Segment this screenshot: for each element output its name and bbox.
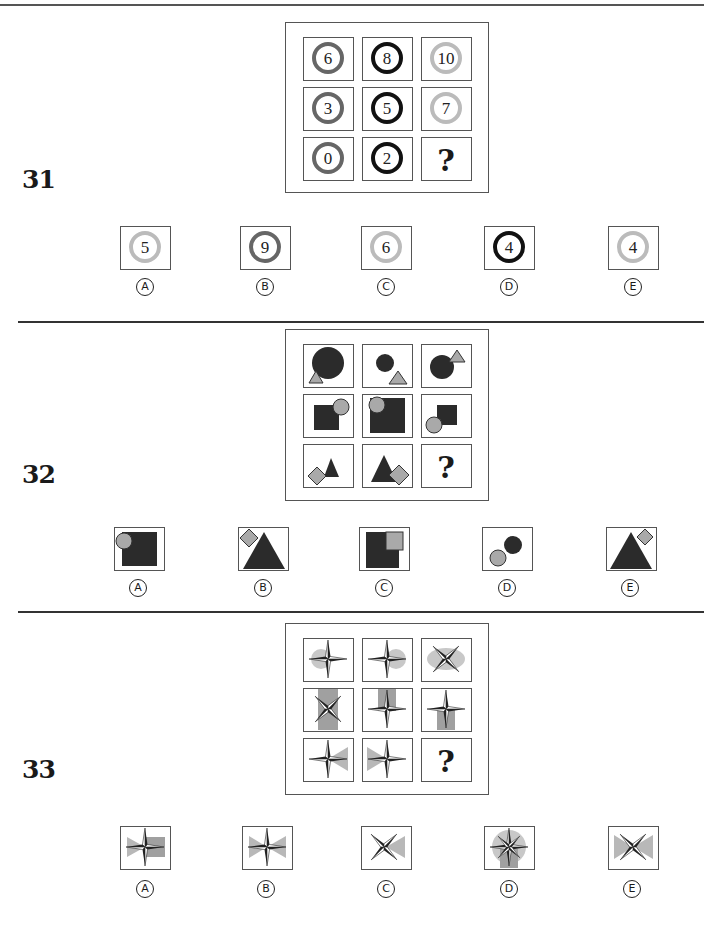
q32-cell-3-2 — [362, 444, 413, 488]
q31-option-c-label[interactable]: C — [376, 276, 396, 296]
q33-cell-2-1 — [303, 688, 354, 732]
q33-option-e[interactable] — [608, 826, 659, 870]
q31-option-d-label[interactable]: D — [499, 276, 519, 296]
q32-option-e-label[interactable]: E — [620, 577, 640, 597]
q31-cell-1-3: 10 — [421, 37, 472, 81]
q32-cell-2-1 — [303, 394, 354, 438]
q32-cell-2-3 — [421, 394, 472, 438]
q32-option-c-label[interactable]: C — [374, 577, 394, 597]
svg-text:?: ? — [437, 143, 455, 178]
q31-cell-1-1: 6 — [303, 37, 354, 81]
svg-text:9: 9 — [261, 238, 270, 257]
q32-option-d[interactable] — [482, 527, 533, 571]
q33-option-a[interactable] — [120, 826, 171, 870]
svg-text:5: 5 — [383, 99, 392, 118]
q31-cell-2-3: 7 — [421, 87, 472, 131]
q31-matrix: 681035702? — [285, 22, 489, 193]
q31-cell-3-3-missing: ? — [421, 137, 472, 181]
q31-cell-2-1: 3 — [303, 87, 354, 131]
page-top-rule — [0, 4, 704, 6]
q32-matrix: ? — [285, 329, 489, 501]
q32-option-a[interactable] — [114, 527, 165, 571]
svg-text:?: ? — [437, 744, 455, 779]
q32-option-e[interactable] — [606, 527, 657, 571]
svg-text:6: 6 — [324, 49, 333, 68]
q33-option-d-label[interactable]: D — [499, 878, 519, 898]
q32-option-d-label[interactable]: D — [497, 577, 517, 597]
q31-option-a-label[interactable]: A — [135, 276, 155, 296]
q32-cell-1-1 — [303, 344, 354, 388]
q33-cell-1-1 — [303, 638, 354, 682]
q33-cell-1-3 — [421, 638, 472, 682]
q31-option-b[interactable]: 9 — [240, 226, 291, 270]
q33-option-e-label[interactable]: E — [622, 878, 642, 898]
q31-option-e-label[interactable]: E — [623, 276, 643, 296]
q33-cell-1-2 — [362, 638, 413, 682]
q31-option-d[interactable]: 4 — [484, 226, 535, 270]
svg-text:5: 5 — [141, 238, 150, 257]
svg-text:4: 4 — [505, 238, 514, 257]
q33-option-c-label[interactable]: C — [376, 878, 396, 898]
q33-option-a-label[interactable]: A — [135, 878, 155, 898]
q32-cell-2-2 — [362, 394, 413, 438]
q33-option-d[interactable] — [484, 826, 535, 870]
q31-cell-2-2: 5 — [362, 87, 413, 131]
q32-option-a-label[interactable]: A — [128, 577, 148, 597]
svg-text:3: 3 — [324, 99, 333, 118]
q33-matrix: ? — [285, 623, 489, 795]
q31-option-a[interactable]: 5 — [120, 226, 171, 270]
q33-cell-2-3 — [421, 688, 472, 732]
svg-text:2: 2 — [383, 149, 392, 168]
svg-text:7: 7 — [442, 99, 451, 118]
section-divider — [18, 321, 704, 323]
svg-text:8: 8 — [383, 49, 392, 68]
q31-cell-3-2: 2 — [362, 137, 413, 181]
question-number-32: 32 — [22, 460, 55, 489]
q31-option-b-label[interactable]: B — [255, 276, 275, 296]
section-divider — [18, 611, 704, 613]
q32-cell-3-1 — [303, 444, 354, 488]
question-number-33: 33 — [22, 755, 55, 784]
svg-text:4: 4 — [629, 238, 638, 257]
svg-text:6: 6 — [382, 238, 391, 257]
q31-cell-1-2: 8 — [362, 37, 413, 81]
q33-cell-3-1 — [303, 738, 354, 782]
q33-option-c[interactable] — [361, 826, 412, 870]
q33-cell-2-2 — [362, 688, 413, 732]
q33-option-b-label[interactable]: B — [256, 878, 276, 898]
q32-cell-3-3-missing: ? — [421, 444, 472, 488]
question-number-31: 31 — [22, 165, 55, 194]
q32-cell-1-3 — [421, 344, 472, 388]
q33-option-b[interactable] — [242, 826, 293, 870]
q33-cell-3-3-missing: ? — [421, 738, 472, 782]
svg-text:10: 10 — [438, 49, 455, 68]
svg-text:0: 0 — [324, 149, 333, 168]
q31-cell-3-1: 0 — [303, 137, 354, 181]
q33-cell-3-2 — [362, 738, 413, 782]
q31-option-e[interactable]: 4 — [608, 226, 659, 270]
q32-cell-1-2 — [362, 344, 413, 388]
q32-option-b[interactable] — [238, 527, 289, 571]
q32-option-b-label[interactable]: B — [253, 577, 273, 597]
svg-text:?: ? — [437, 450, 455, 485]
q32-option-c[interactable] — [359, 527, 410, 571]
q31-option-c[interactable]: 6 — [361, 226, 412, 270]
